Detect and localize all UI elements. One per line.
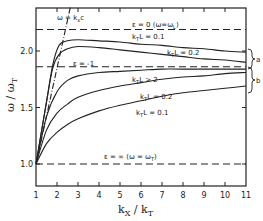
series-line: k_T L = 0.1 (a) [36,40,246,164]
x-axis-label: kX / kT [118,203,154,218]
eps-inf-label: ε = ∞ (ω = ωT) [104,153,157,162]
x-tick-label: 6 [138,191,143,200]
series-line: k_T L = 0.2 (b) [36,72,246,164]
x-tick-label: 7 [159,191,164,200]
x-tick-label: 10 [220,191,230,200]
brace-a-label: a [256,56,260,64]
ktl-01a-label: kTL = 0.1 [132,33,164,42]
y-ticks [36,51,246,164]
y-tick-label: 1.0 [20,160,33,169]
eps-minus1-label: ε = -1 [73,60,94,68]
brace-b-icon [248,67,255,93]
ktl-02b-label: kTL = 0.2 [140,93,172,102]
x-tick-labels: 1234567891011 [33,191,251,200]
x-tick-label: 2 [54,191,59,200]
series-group: k_T L = 0.1 (a)k_T L = 0.2 (a)k_T L > 2k… [36,6,246,164]
x-tick-label: 4 [96,191,101,200]
x-tick-label: 9 [201,191,206,200]
ktl-01b-label: kTL = 0.1 [136,109,168,118]
y-tick-label: 2.0 [20,47,33,56]
ktl-02a-label: kTL = 0.2 [167,49,199,58]
eps0-label: ε = 0 (ω=ωL) [132,21,179,30]
brace-b-label: b [256,77,261,85]
x-tick-label: 11 [241,191,251,200]
ktl-gt2-label: kTL > 2 [132,76,158,85]
light-line-label: ω = kxc [57,14,84,23]
chart: 1234567891011 1.01.52.0 k_T L = 0.1 (a)k… [0,0,263,221]
brace-a-icon [248,49,255,69]
y-tick-labels: 1.01.52.0 [20,47,33,169]
y-axis-label: ω / ωT [4,77,19,112]
y-tick-label: 1.5 [20,104,33,113]
x-tick-label: 1 [33,191,38,200]
x-tick-label: 5 [117,191,122,200]
x-tick-label: 3 [75,191,80,200]
x-tick-label: 8 [180,191,185,200]
series-line: k_T L = 0.2 (a) [36,46,246,164]
